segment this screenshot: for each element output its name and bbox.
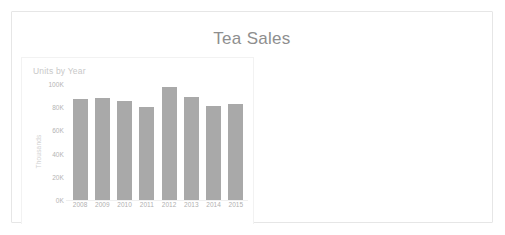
bar-2008[interactable]	[73, 99, 88, 200]
chart-title: Units by Year	[33, 66, 86, 76]
bars-container	[68, 84, 248, 200]
chart-visual-card[interactable]: Units by Year Thousands 0K20K40K60K80K10…	[21, 57, 254, 224]
bar-slot	[225, 84, 247, 200]
screenshot-root: Tea Sales Units by Year Thousands 0K20K4…	[0, 0, 505, 235]
x-axis-tick-label: 2012	[158, 201, 180, 208]
bar-2011[interactable]	[139, 107, 154, 200]
plot-area: Thousands 0K20K40K60K80K100K 20082009201…	[22, 84, 255, 224]
bar-2010[interactable]	[117, 101, 132, 200]
bar-slot	[136, 84, 158, 200]
bar-slot	[91, 84, 113, 200]
page-title: Tea Sales	[12, 29, 492, 49]
y-axis-tick-label: 40K	[52, 150, 64, 157]
y-axis-tick-label: 100K	[48, 81, 64, 88]
y-axis-tick-label: 60K	[52, 127, 64, 134]
bar-slot	[69, 84, 91, 200]
bar-2014[interactable]	[206, 106, 221, 200]
x-axis-tick-label: 2014	[203, 201, 225, 208]
x-axis-tick-label: 2015	[225, 201, 247, 208]
y-axis-tick-label: 20K	[52, 173, 64, 180]
x-axis-tick-labels: 20082009201020112012201320142015	[68, 201, 248, 208]
x-axis-tick-label: 2013	[180, 201, 202, 208]
bar-slot	[114, 84, 136, 200]
y-axis-tick-label: 0K	[56, 197, 64, 204]
x-axis-tick-label: 2009	[91, 201, 113, 208]
y-axis-tick-label: 80K	[52, 104, 64, 111]
x-axis-tick-label: 2008	[69, 201, 91, 208]
bar-2009[interactable]	[95, 98, 110, 200]
bar-series	[68, 84, 248, 200]
bar-2015[interactable]	[228, 104, 243, 200]
report-card: Tea Sales Units by Year Thousands 0K20K4…	[11, 11, 493, 223]
x-axis-tick-label: 2011	[136, 201, 158, 208]
bar-slot	[203, 84, 225, 200]
bar-slot	[180, 84, 202, 200]
bar-2013[interactable]	[184, 97, 199, 200]
bar-2012[interactable]	[162, 87, 177, 200]
bar-slot	[158, 84, 180, 200]
x-axis-tick-label: 2010	[114, 201, 136, 208]
y-axis-tick-labels: 0K20K40K60K80K100K	[38, 84, 64, 200]
